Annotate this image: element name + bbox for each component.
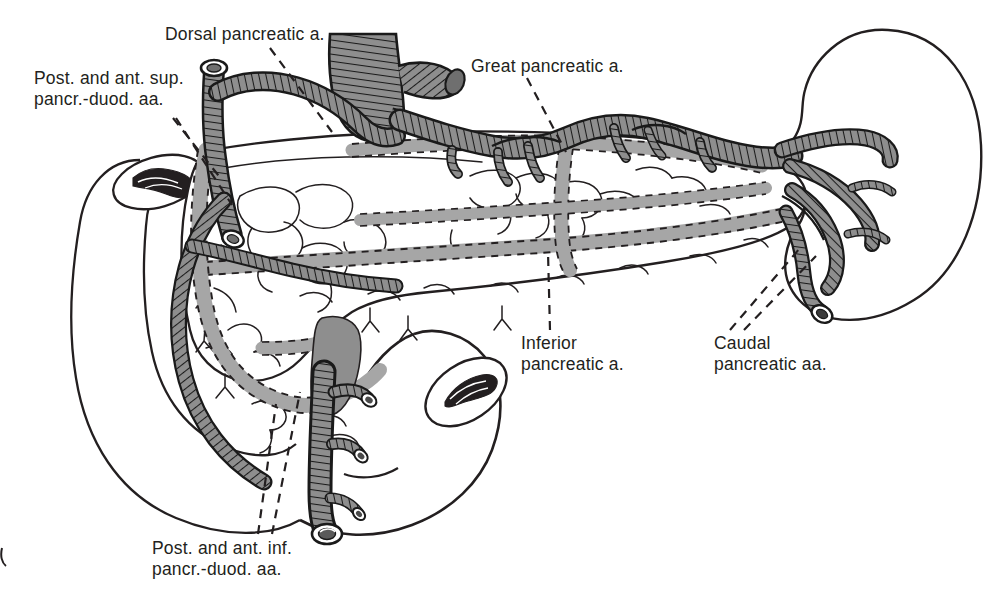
label-inferior-pancreatic-artery: Inferior pancreatic a. — [521, 333, 624, 374]
label-great-pancreatic-artery: Great pancreatic a. — [471, 56, 624, 77]
label-post-ant-sup-pancr-duod-aa: Post. and ant. sup. pancr.-duod. aa. — [34, 68, 184, 109]
anatomical-figure: Dorsal pancreatic a. Post. and ant. sup.… — [0, 0, 989, 607]
label-caudal-pancreatic-aa: Caudal pancreatic aa. — [714, 333, 827, 374]
label-dorsal-pancreatic-artery: Dorsal pancreatic a. — [165, 24, 325, 45]
label-post-ant-inf-pancr-duod-aa: Post. and ant. inf. pancr.-duod. aa. — [152, 538, 292, 579]
edge-mark — [1, 548, 6, 566]
